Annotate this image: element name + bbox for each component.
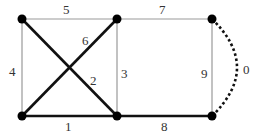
edge-label-2: 2 [90, 73, 97, 88]
edge-label-8: 8 [161, 119, 168, 134]
edge-label-4: 4 [9, 64, 16, 79]
edge-0 [212, 19, 237, 116]
graph-diagram: 5 7 6 4 2 3 9 0 1 8 [0, 0, 262, 136]
edge-label-5: 5 [63, 2, 70, 17]
node-c [208, 15, 217, 24]
edge-label-0: 0 [243, 62, 250, 77]
node-d [18, 112, 27, 121]
edge-label-6: 6 [82, 33, 89, 48]
edge-label-3: 3 [121, 66, 128, 81]
edge-label-9: 9 [201, 66, 208, 81]
node-a [18, 15, 27, 24]
node-f [208, 112, 217, 121]
edge-label-1: 1 [65, 119, 72, 134]
node-e [113, 112, 122, 121]
edge-label-7: 7 [159, 2, 166, 17]
node-b [113, 15, 122, 24]
